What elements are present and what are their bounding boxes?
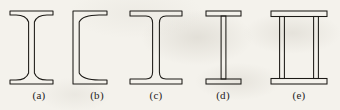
bottom-flange-plate-e [271, 79, 327, 85]
shape-outline-b [73, 11, 107, 84]
web-plate-left-e [280, 17, 285, 79]
web-plate-d [221, 16, 226, 79]
figure-labels-row: (a) (b) (c) (d) (e) [0, 88, 340, 108]
figure-label-d: (d) [184, 88, 262, 102]
figure-label-e: (e) [260, 88, 338, 102]
top-flange-plate-d [206, 11, 241, 16]
shape-outline-c [130, 11, 182, 84]
top-flange-plate-e [271, 11, 327, 17]
cross-section-e-box-girder [271, 11, 327, 84]
cross-section-a-i-beam-tapered-flange [10, 11, 53, 84]
cross-section-b-channel [73, 11, 107, 84]
shape-outline-a [10, 11, 53, 84]
cross-section-c-wide-flange-h-beam [130, 11, 182, 84]
beam-cross-section-figure: (a) (b) (c) (d) (e) [0, 0, 340, 110]
cross-section-d-plate-girder [206, 11, 241, 84]
bottom-flange-plate-d [206, 79, 241, 84]
web-plate-right-e [314, 17, 319, 79]
